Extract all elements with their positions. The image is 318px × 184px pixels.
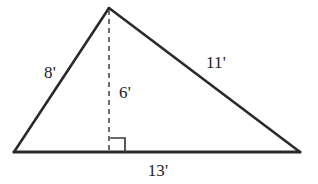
- triangle-figure-canvas: [0, 0, 318, 184]
- label-base-length: 13': [148, 162, 169, 179]
- triangle-side-right: [109, 8, 300, 152]
- label-left-side-length: 8': [44, 64, 56, 81]
- triangle-side-left: [14, 8, 109, 152]
- label-right-side-length: 11': [206, 54, 226, 71]
- triangle-diagram: 8' 11' 6' 13': [0, 0, 318, 184]
- label-altitude-length: 6': [119, 84, 131, 101]
- right-angle-marker-icon: [111, 138, 125, 152]
